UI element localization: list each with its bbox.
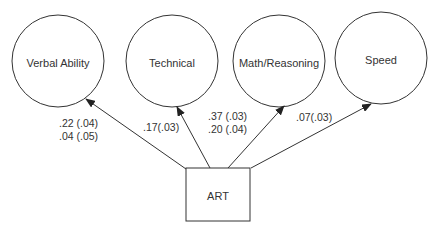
speed-label: Speed xyxy=(365,54,397,66)
math-coef-2: .20 (.04) xyxy=(208,123,247,136)
technical-coef-1: .17(.03) xyxy=(143,121,179,134)
arrow-art-to-verbal xyxy=(86,99,186,169)
technical-label: Technical xyxy=(149,57,195,69)
art-label: ART xyxy=(207,190,229,202)
math-coef-1: .37 (.03) xyxy=(208,110,247,123)
verbal-coef-1: .22 (.04) xyxy=(59,117,98,130)
verbal-ability-label: Verbal Ability xyxy=(27,57,90,69)
arrow-art-to-technical xyxy=(177,107,210,168)
speed-coef-1: .07(.03) xyxy=(296,111,332,124)
verbal-coef-2: .04 (.05) xyxy=(59,130,98,143)
math-reasoning-label: Math/Reasoning xyxy=(239,57,319,69)
